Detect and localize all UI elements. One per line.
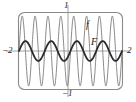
- x-axis-min-label: −2: [2, 46, 13, 55]
- x-axis-max-label: 2: [127, 46, 132, 55]
- graph-figure: −2 2 1 −1 f F: [0, 0, 136, 102]
- y-axis-max-label: 1: [64, 1, 69, 10]
- curve-f-label: f: [86, 20, 89, 30]
- y-axis-min-label: −1: [62, 89, 73, 98]
- plot-canvas: [0, 0, 136, 102]
- curve-F-label: F: [91, 37, 97, 47]
